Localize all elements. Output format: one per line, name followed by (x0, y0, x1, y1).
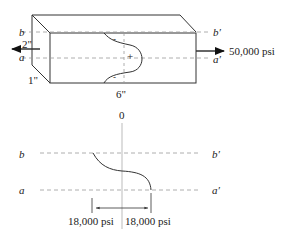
sign-middle: + (127, 50, 133, 62)
label-a-lower: a (19, 184, 25, 196)
label-a-prime-lower: a′ (212, 184, 221, 196)
label-length: 6" (116, 88, 126, 100)
label-zero: 0 (119, 109, 125, 121)
label-b-prime-lower: b′ (212, 148, 221, 160)
sign-bottom: - (113, 72, 116, 82)
stress-diagram: - + - b a 2" 1" 6" b′ a′ 50,000 psi 0 b … (0, 0, 289, 232)
label-b-lower: b (19, 148, 25, 160)
label-a-prime: a′ (213, 53, 222, 65)
label-b-prime: b′ (213, 26, 222, 38)
dimension-lines (92, 193, 151, 213)
label-height: 2" (22, 38, 32, 50)
section-lines-bottom (40, 153, 200, 190)
label-load: 50,000 psi (229, 45, 275, 57)
label-a: a (19, 51, 25, 63)
label-b: b (19, 26, 25, 38)
label-depth: 1" (28, 74, 38, 86)
label-right-stress: 18,000 psi (125, 215, 171, 227)
sign-top: - (113, 34, 116, 44)
label-left-stress: 18,000 psi (68, 215, 114, 227)
